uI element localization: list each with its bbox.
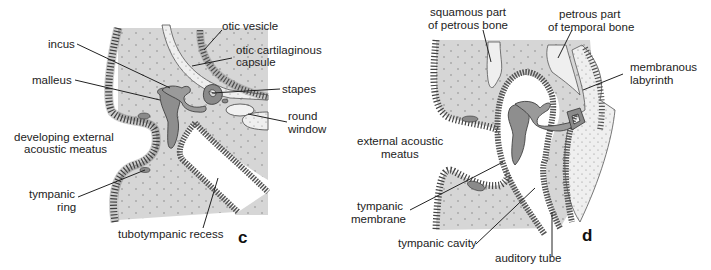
label-tympanic-ring-line1: tympanic bbox=[29, 188, 75, 200]
panel-c: incus malleus developing external acoust… bbox=[14, 20, 327, 247]
label-stapes: stapes bbox=[282, 83, 316, 95]
label-petrous-line1: petrous part bbox=[559, 8, 621, 20]
label-eam-line1: external acoustic bbox=[357, 135, 444, 147]
label-otic-capsule-line1: otic cartilaginous bbox=[236, 44, 322, 56]
label-eam-line2: meatus bbox=[381, 148, 419, 160]
label-developing-eam-line1: developing external bbox=[14, 131, 114, 143]
label-round-window-line1: round bbox=[288, 110, 317, 122]
label-petrous-line2: of temporal bone bbox=[548, 21, 634, 33]
panel-letter-d: d bbox=[582, 226, 592, 245]
label-otic-vesicle: otic vesicle bbox=[222, 20, 278, 32]
label-otic-capsule-line2: capsule bbox=[236, 56, 276, 68]
figure-canvas: incus malleus developing external acoust… bbox=[0, 0, 711, 270]
label-incus: incus bbox=[48, 38, 75, 50]
label-tympanic-ring-line2: ring bbox=[57, 201, 76, 213]
label-tympanic-cavity: tympanic cavity bbox=[398, 237, 477, 249]
label-squamous-line2: of petrous bone bbox=[428, 19, 508, 31]
label-tympanic-membrane-line1: tympanic bbox=[357, 200, 403, 212]
label-auditory-tube: auditory tube bbox=[495, 252, 562, 264]
label-tubotympanic-recess: tubotympanic recess bbox=[118, 228, 224, 240]
label-membranous-labyrinth-line1: membranous bbox=[630, 61, 697, 73]
panel-d: squamous part of petrous bone petrous pa… bbox=[351, 6, 697, 264]
label-tympanic-membrane-line2: membrane bbox=[351, 213, 406, 225]
label-developing-eam-line2: acoustic meatus bbox=[24, 143, 107, 155]
label-round-window-line2: window bbox=[287, 123, 327, 135]
label-malleus: malleus bbox=[32, 74, 72, 86]
label-squamous-line1: squamous part bbox=[430, 6, 507, 18]
panel-letter-c: c bbox=[238, 228, 247, 247]
label-membranous-labyrinth-line2: labyrinth bbox=[630, 74, 673, 86]
